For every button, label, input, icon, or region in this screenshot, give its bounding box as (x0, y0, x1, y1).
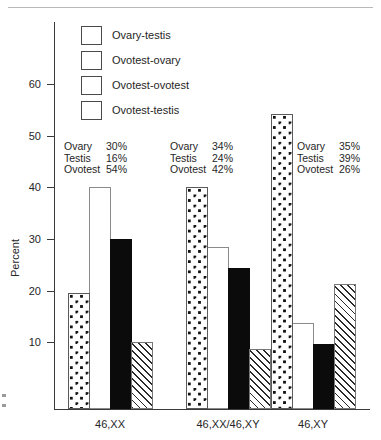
annotation-key: Ovotest (64, 164, 106, 176)
annotation-value: 26% (339, 164, 369, 176)
y-axis-tick (47, 291, 54, 292)
annotation-key: Ovary (170, 141, 212, 153)
annotation-key: Ovary (64, 141, 106, 153)
legend-item: Ovotest-testis (81, 100, 189, 120)
x-axis-line (54, 409, 370, 410)
annotation-value: 30% (106, 141, 136, 153)
annotation-key: Ovotest (170, 164, 212, 176)
bar (131, 342, 153, 409)
bar (271, 114, 293, 409)
bar-chart: 102030405060 Percent 46,XX46,XX/46,XY46,… (0, 0, 381, 440)
legend-item-label: Ovotest-ovotest (112, 79, 189, 91)
bar (249, 349, 271, 409)
bar (68, 293, 90, 409)
bar (313, 344, 335, 409)
annotation-value: 54% (106, 164, 136, 176)
legend-swatch-dotted-icon (81, 26, 102, 45)
y-axis-tick (47, 239, 54, 240)
annotation-key: Ovary (297, 141, 339, 153)
annotation-row: Ovotest26% (297, 164, 369, 176)
bar (292, 323, 314, 409)
legend-item-label: Ovotest-testis (112, 104, 179, 116)
legend-item-label: Ovotest-ovary (112, 54, 180, 66)
legend-item: Ovary-testis (81, 25, 189, 45)
legend-item-label: Ovary-testis (112, 29, 171, 41)
y-axis-tick (47, 84, 54, 85)
legend-item: Ovotest-ovotest (81, 75, 189, 95)
x-axis-group-label: 46,XX (50, 418, 170, 430)
y-axis-line (54, 22, 55, 410)
legend-swatch-black-icon (81, 76, 102, 95)
legend-swatch-white-icon (81, 51, 102, 70)
y-axis-tick-label: 60 (15, 79, 41, 90)
bar (228, 268, 250, 409)
annotation-row: Ovotest42% (170, 164, 242, 176)
annotation-key: Ovotest (297, 164, 339, 176)
legend-swatch-hatched-icon (81, 101, 102, 120)
legend: Ovary-testisOvotest-ovaryOvotest-ovotest… (81, 25, 189, 120)
annotation-value: 35% (339, 141, 369, 153)
x-axis-group-label: 46,XY (253, 418, 373, 430)
y-axis-tick (47, 342, 54, 343)
annotation-value: 42% (212, 164, 242, 176)
y-axis-ticks: 102030405060 (0, 0, 54, 440)
y-axis-tick (47, 136, 54, 137)
annotation-row: Ovary30% (64, 141, 136, 153)
y-axis-title: Percent (9, 223, 21, 293)
annotation-row: Ovary34% (170, 141, 242, 153)
bar (89, 187, 111, 409)
y-axis-tick (47, 187, 54, 188)
annotation-block: Ovary34%Testis24%Ovotest42% (170, 141, 242, 176)
legend-item: Ovotest-ovary (81, 50, 189, 70)
y-axis-tick-label: 10 (15, 337, 41, 348)
annotation-row: Ovary35% (297, 141, 369, 153)
bar (334, 284, 356, 409)
annotation-block: Ovary35%Testis39%Ovotest26% (297, 141, 369, 176)
annotation-row: Ovotest54% (64, 164, 136, 176)
bar (110, 239, 132, 409)
y-axis-tick-label: 50 (15, 131, 41, 142)
y-axis-tick-label: 40 (15, 182, 41, 193)
bar (186, 187, 208, 409)
annotation-value: 34% (212, 141, 242, 153)
bar (207, 247, 229, 409)
annotation-block: Ovary30%Testis16%Ovotest54% (64, 141, 136, 176)
